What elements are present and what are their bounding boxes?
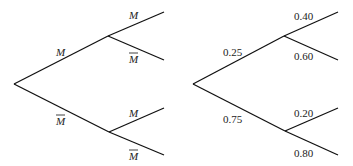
right-tree: 0.25 0.75 0.40 0.60 0.20 0.80	[193, 10, 338, 159]
prob-0-80: 0.80	[294, 147, 314, 159]
prob-0-75: 0.75	[223, 113, 243, 125]
prob-0-20: 0.20	[294, 107, 314, 119]
label-m-m: M	[128, 9, 139, 21]
label-m-not-m: M	[128, 53, 139, 65]
branch-0-25	[193, 36, 284, 84]
label-not-m-not-m: M	[128, 150, 139, 162]
label-not-m: M	[55, 115, 66, 127]
branch-m	[14, 36, 108, 84]
label-m: M	[55, 46, 66, 58]
left-tree: M M M M M M	[14, 9, 164, 162]
prob-0-25: 0.25	[223, 46, 243, 58]
probability-tree-diagrams: M M M M M M 0.25 0.75 0.40 0.60 0.20 0.8…	[0, 0, 353, 166]
label-not-m-m: M	[128, 107, 139, 119]
prob-0-40: 0.40	[294, 10, 314, 22]
prob-0-60: 0.60	[294, 50, 314, 62]
